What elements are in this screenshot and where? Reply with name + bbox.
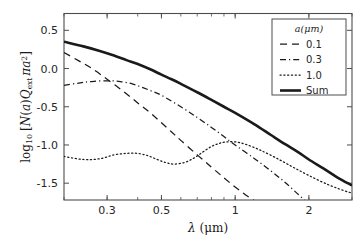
legend-label-0-3: 0.3 xyxy=(306,54,322,65)
x-tick-label: 2 xyxy=(305,204,312,217)
legend-label-sum: Sum xyxy=(306,85,328,96)
x-axis-label-unit: (μm) xyxy=(200,221,229,235)
y-tick-label: -0.5 xyxy=(37,101,58,114)
curve-0-3 xyxy=(64,81,306,202)
y-tick-label: -1.5 xyxy=(37,177,58,190)
svg-text:log10[N(a)Qextπa2]: log10[N(a)Qextπa2] xyxy=(19,51,34,163)
legend-label-1-0: 1.0 xyxy=(306,70,322,81)
y-label-bracket-close: ] xyxy=(19,51,33,56)
y-label-a: a xyxy=(19,104,33,111)
y-label-n: N xyxy=(19,115,33,127)
x-tick-label: 0.5 xyxy=(153,204,171,217)
y-axis-label: log10[N(a)Qextπa2] xyxy=(19,51,34,163)
y-tick-label: -1.0 xyxy=(37,139,58,152)
y-label-pia: πa xyxy=(19,61,33,77)
legend-title: a(μm) xyxy=(295,23,324,34)
x-axis-label: λ(μm) xyxy=(187,221,228,235)
x-tick-label: 1 xyxy=(232,204,239,217)
y-tick-label: 0.5 xyxy=(41,24,59,37)
curve-1-0 xyxy=(64,142,352,193)
y-label-sub10: 10 xyxy=(25,134,34,144)
x-tick-label: 0.3 xyxy=(98,204,116,217)
chart-figure: 0.30.512 0.50.0-0.5-1.0-1.5 λ(μm) log10[… xyxy=(0,0,364,243)
y-tick-label: 0.0 xyxy=(41,63,59,76)
y-label-q: Q xyxy=(19,89,33,99)
y-label-log: log xyxy=(19,144,33,163)
legend: a(μm) 0.10.31.0Sum xyxy=(272,19,346,96)
x-axis-label-lambda: λ xyxy=(187,221,196,235)
y-label-ext: ext xyxy=(25,78,34,90)
svg-text:λ(μm): λ(μm) xyxy=(187,221,228,235)
legend-label-0-1: 0.1 xyxy=(306,39,322,50)
